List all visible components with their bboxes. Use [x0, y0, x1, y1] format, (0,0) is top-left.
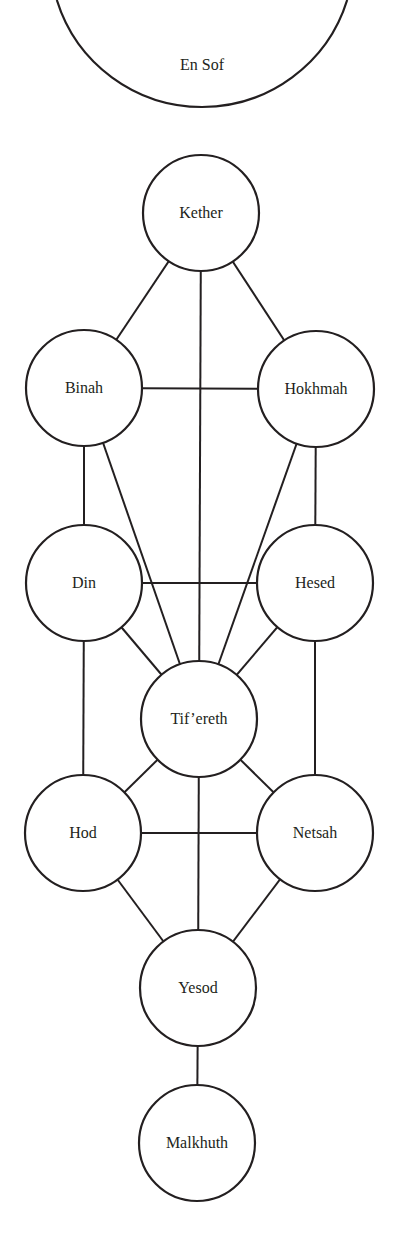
nodes-layer: KetherBinahHokhmahDinHesedTif’erethHodNe… [25, 155, 374, 1201]
node-netsah: Netsah [257, 775, 373, 891]
node-din: Din [26, 525, 142, 641]
node-hod: Hod [25, 775, 141, 891]
node-yesod-label: Yesod [178, 979, 217, 996]
node-yesod: Yesod [140, 930, 256, 1046]
sefirot-tree-diagram: En Sof KetherBinahHokhmahDinHesedTif’ere… [0, 0, 393, 1258]
node-kether-label: Kether [179, 204, 223, 221]
node-malkhuth-label: Malkhuth [166, 1134, 228, 1151]
node-hokhmah-label: Hokhmah [284, 380, 347, 397]
node-binah-label: Binah [65, 379, 103, 396]
node-hod-label: Hod [69, 824, 97, 841]
node-malkhuth: Malkhuth [139, 1085, 255, 1201]
en-sof: En Sof [57, 0, 347, 107]
en-sof-arc [57, 0, 347, 107]
node-din-label: Din [72, 574, 96, 591]
node-hokhmah: Hokhmah [258, 331, 374, 447]
edge-kether-tifereth [199, 213, 201, 719]
node-tifereth-label: Tif’ereth [170, 710, 227, 727]
node-hesed: Hesed [257, 525, 373, 641]
node-hesed-label: Hesed [295, 574, 335, 591]
node-binah: Binah [26, 330, 142, 446]
node-tifereth: Tif’ereth [141, 661, 257, 777]
node-kether: Kether [143, 155, 259, 271]
node-netsah-label: Netsah [293, 824, 337, 841]
en-sof-label: En Sof [180, 56, 225, 73]
